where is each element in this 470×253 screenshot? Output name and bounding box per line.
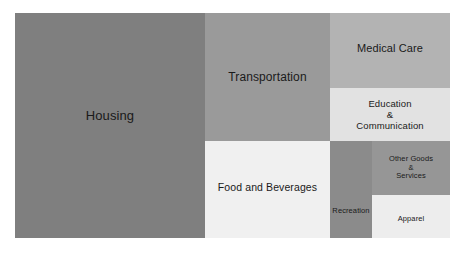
treemap-tile-education-and-communication[interactable]: Education & Communication [330,88,450,141]
treemap-tile-medical-care[interactable]: Medical Care [330,13,450,88]
treemap-tile-label: Education & Communication [354,98,425,132]
treemap-tile-food-and-beverages[interactable]: Food and Beverages [205,141,330,238]
treemap-tile-label: Other Goods & Services [387,155,435,182]
treemap-tile-label: Recreation [330,207,371,216]
treemap-chart: Housing Transportation Food and Beverage… [0,0,470,253]
treemap-tile-transportation[interactable]: Transportation [205,13,330,141]
treemap-tile-label: Apparel [396,215,427,224]
treemap-tile-recreation[interactable]: Recreation [330,141,372,238]
treemap-tile-housing[interactable]: Housing [15,13,205,238]
treemap-tile-label: Medical Care [355,42,425,55]
treemap-tile-label: Housing [84,108,136,123]
treemap-plot-area: Housing Transportation Food and Beverage… [15,13,450,238]
treemap-tile-other-goods-and-services[interactable]: Other Goods & Services [372,141,450,195]
treemap-tile-apparel[interactable]: Apparel [372,195,450,238]
treemap-tile-label: Food and Beverages [216,181,319,193]
treemap-tile-label: Transportation [226,70,308,84]
